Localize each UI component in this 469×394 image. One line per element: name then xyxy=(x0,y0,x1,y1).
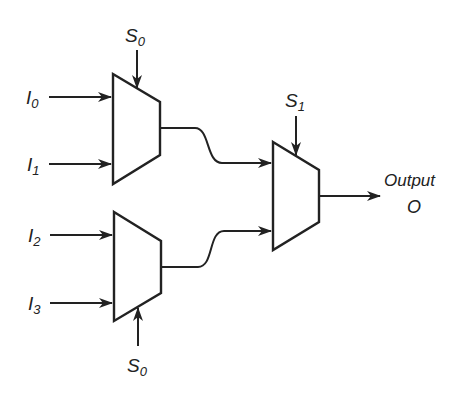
label-i3: I3 xyxy=(28,293,41,317)
mux-diagram: I0 I1 I2 I3 S0 S0 S1 Output O xyxy=(0,0,469,394)
label-i0: I0 xyxy=(26,87,39,111)
label-s0-top: S0 xyxy=(125,25,146,49)
label-i1: I1 xyxy=(27,154,40,178)
mux-top xyxy=(113,74,160,184)
label-s0-bottom: S0 xyxy=(127,355,148,379)
mux-bottom xyxy=(114,212,161,321)
wire-bottom-to-final xyxy=(161,231,271,267)
label-output-symbol: O xyxy=(407,197,421,217)
wire-top-to-final xyxy=(160,128,271,163)
label-i2: I2 xyxy=(28,225,41,249)
label-output: Output xyxy=(384,171,436,190)
mux-final xyxy=(273,142,319,250)
label-s1: S1 xyxy=(285,90,305,114)
